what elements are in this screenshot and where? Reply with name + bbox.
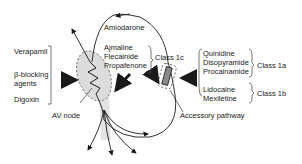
drug-flecainide: Flecainide [104, 52, 138, 61]
drug-amiodarone: Amiodarone [104, 23, 144, 32]
drug-ajmaline: Ajmaline [104, 43, 133, 52]
drug-propafenone: Propafenone [104, 61, 147, 70]
drug-mexiletine: Mexiletine [203, 94, 237, 103]
label-class-1c: Class 1c [155, 53, 184, 62]
label-class-1a: Class 1a [257, 61, 286, 70]
drug-lidocaine: Lidocaine [203, 85, 235, 94]
class1a-brace [199, 49, 202, 96]
drug-digoxin: Digoxin [14, 95, 39, 104]
arrow-1c-to-ap [146, 72, 158, 82]
class1b-brace-right [249, 83, 254, 103]
drug-procainamide: Procainamide [203, 67, 249, 76]
drug-verapamil: Verapamil [14, 47, 47, 56]
drug-beta-agents: agents [14, 79, 37, 88]
label-accessory-pathway: Accessory pathway [180, 111, 245, 120]
class1a-brace-right [249, 49, 254, 77]
left-brace [48, 46, 51, 104]
class1c-brace [148, 46, 153, 74]
label-class-1b: Class 1b [257, 89, 286, 98]
drug-beta-blocking: β-blocking [14, 70, 48, 79]
drug-disopyramide: Disopyramide [203, 58, 249, 67]
circuit-diagram [0, 0, 302, 164]
label-av-node: AV node [52, 111, 80, 120]
accessory-pathway-bar [162, 67, 172, 86]
drug-quinidine: Quinidine [203, 49, 235, 58]
arrow-1c-to-av [116, 74, 130, 90]
